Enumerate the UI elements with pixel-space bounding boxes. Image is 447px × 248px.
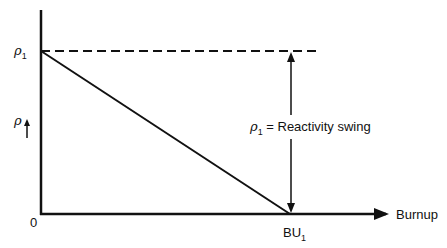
x-axis-arrow-icon <box>374 208 389 220</box>
bu1-tick-label: BU1 <box>283 226 306 243</box>
rho1-tick-label: ρ1 <box>14 44 27 61</box>
bu-subscript: 1 <box>301 233 306 243</box>
reactivity-swing-label: ρ1 = Reactivity swing <box>250 120 371 137</box>
bu-text: BU <box>283 225 301 240</box>
diagram-graphics <box>0 0 447 248</box>
swing-rho-symbol: ρ <box>250 119 258 134</box>
arrow-down-icon <box>287 203 295 213</box>
swing-text: = Reactivity swing <box>263 119 371 134</box>
arrow-up-icon <box>287 52 295 62</box>
rho-axis-label: ρ <box>14 114 22 127</box>
reactivity-swing-diagram: ρ1 ρ 0 BU1 Burnup ρ1 = Reactivity swing <box>0 0 447 248</box>
rho-symbol: ρ <box>14 43 22 58</box>
rho-subscript: 1 <box>22 51 27 61</box>
rho-axis-arrow-icon <box>24 119 30 126</box>
origin-label: 0 <box>30 216 37 229</box>
burnup-axis-label: Burnup <box>396 208 438 221</box>
